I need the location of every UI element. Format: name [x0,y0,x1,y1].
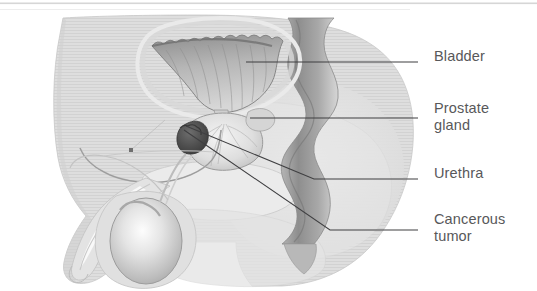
seminal-vesicle [246,109,275,132]
anatomy-illustration [0,0,537,291]
label-cancerous-tumor: Cancerous tumor [434,211,505,245]
label-urethra: Urethra [434,165,483,182]
pointer-dot [129,148,133,152]
label-bladder: Bladder [434,48,485,65]
label-prostate-gland: Prostate gland [434,100,489,134]
top-rule [0,3,537,5]
top-rule-soft [0,9,410,10]
anatomy-figure: Bladder Prostate gland Urethra Cancerous… [0,0,537,291]
